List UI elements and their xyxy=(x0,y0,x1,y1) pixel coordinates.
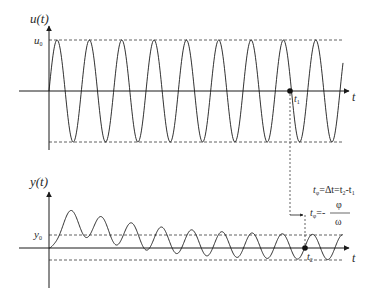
t2-label: t2 xyxy=(307,251,313,263)
u0-label: u0 xyxy=(34,34,43,47)
t1-label: t1 xyxy=(294,93,300,105)
y-axis-label: y(t) xyxy=(28,174,48,189)
phase-equations: tφ=Δt=t2-t1 tφ=- φ ω xyxy=(310,184,355,227)
equation-delta-t: tφ=Δt=t2-t1 xyxy=(313,184,355,196)
equation-phase-over-omega: tφ=- xyxy=(310,207,325,219)
phase-delay-connector xyxy=(290,94,305,246)
bottom-plot: y(t) y0 t t2 xyxy=(19,174,356,288)
t2-marker-dot xyxy=(302,245,308,251)
equation-numerator-phi: φ xyxy=(336,199,342,210)
output-response-wave xyxy=(49,210,343,259)
top-t-axis-label: t xyxy=(352,90,356,104)
equation-denominator-omega: ω xyxy=(335,216,342,227)
t1-marker-dot xyxy=(287,88,293,94)
u-axis-label: u(t) xyxy=(30,11,49,26)
phase-shift-diagram: u(t) u0 t t1 tφ=Δt=t2-t1 tφ=- φ ω y( xyxy=(0,0,376,304)
bottom-t-axis-label: t xyxy=(352,251,356,265)
top-plot: u(t) u0 t t1 xyxy=(19,11,356,150)
y0-label: y0 xyxy=(33,228,42,241)
